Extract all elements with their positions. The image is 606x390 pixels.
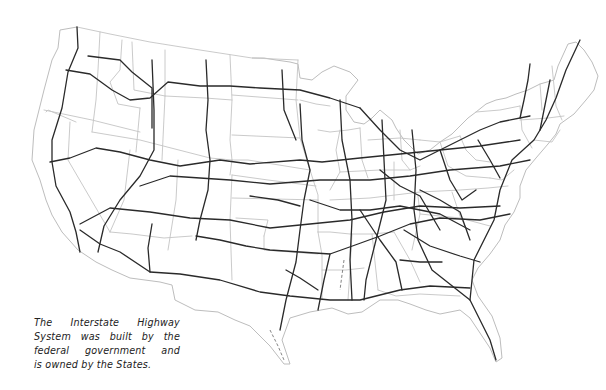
- state-borders: [44, 32, 564, 300]
- interstate-highways: [50, 27, 580, 360]
- coastline: [32, 27, 598, 364]
- caption-line-1: The Interstate Highway: [34, 316, 180, 330]
- caption-line-2: System was built by the: [34, 330, 180, 344]
- caption-line-3: federal government and: [34, 344, 180, 358]
- map-caption: The Interstate Highway System was built …: [34, 316, 180, 372]
- caption-line-4: is owned by the States.: [34, 358, 180, 372]
